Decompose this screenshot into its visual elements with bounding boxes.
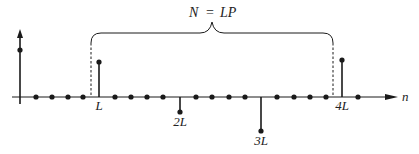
n-axis <box>12 29 398 104</box>
zero-sample-dot <box>128 94 133 99</box>
sample-4l: 4L <box>335 57 349 113</box>
zero-sample-dot <box>193 94 198 99</box>
zero-sample-dot <box>160 94 165 99</box>
sample-2l: 2L <box>173 97 187 129</box>
sample-label-2l: 2L <box>173 114 187 129</box>
sample-dot <box>339 57 344 62</box>
zero-sample-dot <box>323 94 328 99</box>
zero-sample-dot <box>49 94 54 99</box>
curly-brace <box>91 22 333 43</box>
sample-3l: 3L <box>253 97 268 148</box>
axis-label-n: n <box>402 89 409 104</box>
zero-sample-dot <box>355 94 360 99</box>
sample-label-l: L <box>94 98 102 113</box>
dashed-period-markers <box>91 43 333 97</box>
equation-rhs: LP <box>219 5 237 20</box>
origin-arrow-icon <box>17 29 23 38</box>
sample-label-4l: 4L <box>335 98 349 113</box>
equation-equals: = <box>206 5 214 20</box>
nonzero-samples: L2L3L4L <box>94 57 348 148</box>
labels: N = LP n <box>188 5 409 104</box>
zero-sample-dot <box>144 94 149 99</box>
zero-sample-dot <box>274 94 279 99</box>
zero-sample-dot <box>80 94 85 99</box>
zero-sample-dot <box>291 94 296 99</box>
zero-sample-dot <box>65 94 70 99</box>
sample-label-3l: 3L <box>253 133 268 148</box>
origin-sample-dot <box>17 47 22 52</box>
sample-dot <box>96 59 101 64</box>
zero-sample-dot <box>33 94 38 99</box>
period-brace <box>91 22 333 43</box>
zero-samples <box>33 94 360 99</box>
zero-sample-dot <box>226 94 231 99</box>
zero-sample-dot <box>209 94 214 99</box>
axis-arrow-icon <box>385 94 398 100</box>
sample-l: L <box>94 59 102 113</box>
zero-sample-dot <box>112 94 117 99</box>
zero-sample-dot <box>307 94 312 99</box>
zero-sample-dot <box>242 94 247 99</box>
equation-lhs: N <box>188 5 199 20</box>
decimation-sequence-diagram: L2L3L4L N = LP n <box>0 0 419 154</box>
